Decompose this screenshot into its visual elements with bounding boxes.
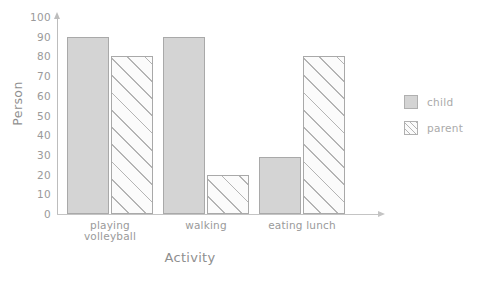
legend-swatch-parent (404, 121, 418, 135)
bar-parent-eating-lunch[interactable] (303, 56, 345, 214)
bar-child-playing-volleyball[interactable] (67, 37, 109, 214)
plot-area: 0102030405060708090100 playingvolleyball… (57, 16, 345, 214)
y-axis-arrow-icon (54, 12, 60, 19)
hatch-pattern (405, 122, 417, 134)
x-axis-line (57, 214, 379, 215)
category-label-line: volleyball (51, 231, 169, 242)
y-axis-tick-label: 60 (37, 90, 51, 102)
bar-child-walking[interactable] (163, 37, 205, 214)
y-axis-tick-label: 30 (37, 149, 51, 161)
y-axis-tick-label: 10 (37, 188, 51, 200)
bar-child-eating-lunch[interactable] (259, 157, 301, 214)
y-axis-tick-label: 20 (37, 169, 51, 181)
hatch-pattern (304, 57, 344, 213)
hatch-pattern (112, 57, 152, 213)
x-axis-arrow-icon (378, 211, 385, 217)
hatch-pattern (208, 176, 248, 213)
y-axis-tick-label: 80 (37, 50, 51, 62)
legend-swatch-child (404, 95, 418, 109)
legend-item-parent[interactable]: parent (404, 118, 463, 138)
legend-label: child (427, 96, 453, 108)
y-axis-tick-label: 40 (37, 129, 51, 141)
legend-item-child[interactable]: child (404, 92, 463, 112)
x-axis-title: Activity (0, 250, 380, 265)
bar-parent-walking[interactable] (207, 175, 249, 214)
bar-chart: Person Activity 0102030405060708090100 p… (0, 0, 477, 282)
y-axis-tick-label: 90 (37, 31, 51, 43)
category-label-eating-lunch: eating lunch (243, 220, 361, 231)
bar-parent-playing-volleyball[interactable] (111, 56, 153, 214)
y-axis-title: Person (10, 69, 25, 139)
category-label-line: eating lunch (243, 220, 361, 231)
y-axis-tick-label: 100 (30, 11, 51, 23)
y-axis-tick-label: 50 (37, 110, 51, 122)
legend: childparent (404, 92, 463, 144)
y-axis-tick-label: 0 (44, 208, 51, 220)
y-axis-line (57, 18, 58, 215)
legend-label: parent (427, 122, 463, 134)
y-axis-tick-label: 70 (37, 70, 51, 82)
